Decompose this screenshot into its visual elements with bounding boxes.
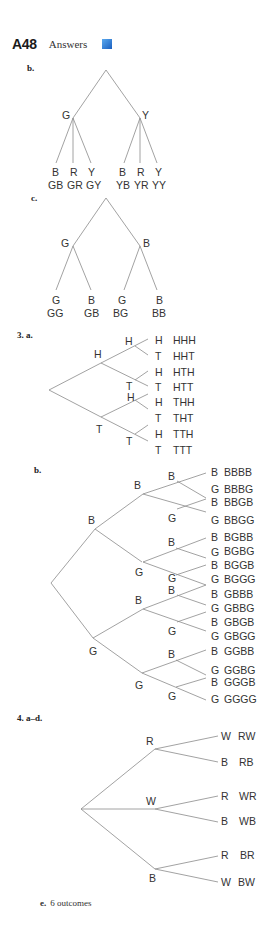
node-r: R [146,735,154,747]
outcome: RB [239,756,254,768]
outcome: WR [239,790,257,802]
answer-4e-text: 6 outcomes [50,898,91,908]
outcome: BW [238,876,255,888]
leaf-branch: B [221,815,228,827]
leaf-branch: W [221,730,231,742]
outcome: BR [240,849,255,861]
tree-4: R W B W RW B RB R WR B WB R BR W BW [0,0,273,951]
node-b: B [149,872,156,884]
leaf-branch: B [221,756,228,768]
leaf-branch: R [221,790,229,802]
node-w: W [146,795,156,807]
answer-4e: e.6 outcomes [40,898,92,908]
outcome: WB [239,815,256,827]
outcome: RW [238,730,255,742]
leaf-branch: R [221,849,229,861]
leaf-branch: W [221,876,231,888]
label-4e: e. [40,898,46,908]
